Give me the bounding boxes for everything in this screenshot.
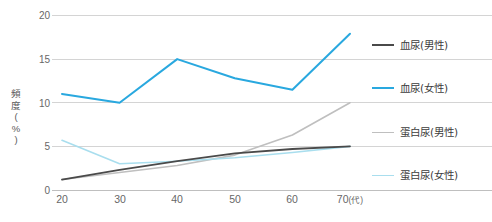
- legend-label-proteinuria-male: 蛋白尿(男性): [400, 126, 458, 138]
- legend-swatch-proteinuria-female: [372, 175, 394, 176]
- legend-label-hematuria-male: 血尿(男性): [400, 39, 448, 51]
- legend-label-hematuria-female: 血尿(女性): [400, 82, 448, 94]
- legend-label-proteinuria-female: 蛋白尿(女性): [400, 169, 458, 181]
- x-tick-label-30: 30: [100, 193, 140, 205]
- legend-swatch-hematuria-female: [372, 87, 394, 89]
- x-tick-label-50: 50: [215, 193, 255, 205]
- series-lines: [62, 34, 350, 180]
- legend-item-hematuria-male[interactable]: 血尿(男性): [372, 38, 448, 52]
- series-line-1: [62, 34, 350, 103]
- series-line-2: [62, 103, 350, 180]
- x-axis-unit-label: (代): [349, 195, 364, 205]
- line-chart: 頻 度 ( % ) 0 5 10 15 20 20 30 40 50 60 70…: [0, 0, 492, 222]
- legend-swatch-proteinuria-male: [372, 132, 394, 133]
- legend-item-hematuria-female[interactable]: 血尿(女性): [372, 81, 448, 95]
- x-tick-label-40: 40: [157, 193, 197, 205]
- x-tick-label-20: 20: [42, 193, 82, 205]
- x-tick-label-70: 70(代): [322, 193, 378, 206]
- x-tick-label-60: 60: [272, 193, 312, 205]
- legend-swatch-hematuria-male: [372, 44, 394, 46]
- legend-item-proteinuria-female[interactable]: 蛋白尿(女性): [372, 168, 458, 182]
- x-tick-label-70-value: 70: [337, 193, 349, 205]
- legend-item-proteinuria-male[interactable]: 蛋白尿(男性): [372, 125, 458, 139]
- plot-area: [0, 0, 492, 222]
